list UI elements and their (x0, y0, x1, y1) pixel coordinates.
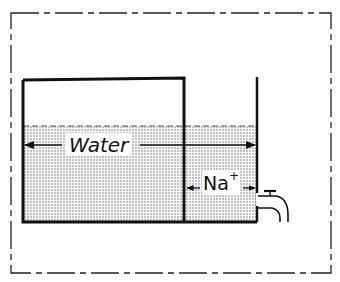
sodium-label: Na (203, 172, 229, 194)
water-label: Water (69, 133, 130, 157)
sodium-charge: + (229, 169, 239, 183)
fluid-compartment-diagram: Water Na + (0, 0, 340, 282)
tap-icon (256, 191, 288, 222)
